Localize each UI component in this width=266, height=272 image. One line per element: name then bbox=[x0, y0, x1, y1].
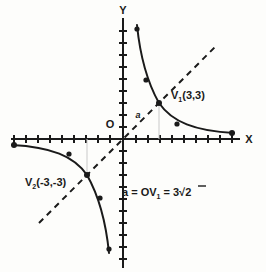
point-marker bbox=[97, 195, 102, 200]
vertex1-coords: (3,3) bbox=[182, 89, 205, 101]
radicand: 2 bbox=[185, 186, 191, 198]
point-marker bbox=[143, 77, 148, 82]
point-marker bbox=[66, 151, 71, 156]
figure-canvas: Y X O a V1(3,3) V2(-3,-3) a = OV1 = 3√2 bbox=[0, 0, 266, 272]
vertex-marker-v1 bbox=[156, 100, 162, 106]
vertex2-label-group: V2(-3,-3) bbox=[25, 176, 67, 190]
svg-text:V2(-3,-3): V2(-3,-3) bbox=[25, 176, 67, 190]
point-marker bbox=[106, 246, 111, 251]
equation-lhs: a = OV bbox=[122, 186, 157, 198]
origin-label: O bbox=[106, 118, 115, 130]
curve-branch-lower-left bbox=[12, 145, 109, 253]
hyperbola-figure: Y X O a V1(3,3) V2(-3,-3) a = OV1 = 3√2 bbox=[0, 0, 266, 272]
y-axis-label: Y bbox=[119, 4, 127, 16]
svg-text:a = OV1 = 3√2: a = OV1 = 3√2 bbox=[122, 186, 191, 200]
equation-rhs: = 3 bbox=[160, 186, 179, 198]
vertex1-label-group: V1(3,3) bbox=[171, 89, 205, 103]
semi-axis-length-label: a bbox=[135, 110, 140, 120]
curve-branch-upper-right bbox=[137, 25, 234, 133]
vertex2-coords: (-3,-3) bbox=[36, 176, 66, 188]
equation-group: a = OV1 = 3√2 bbox=[122, 186, 206, 200]
vertex-marker-v2 bbox=[84, 172, 90, 178]
x-axis-label: X bbox=[245, 133, 253, 145]
point-marker bbox=[174, 121, 179, 126]
point-marker bbox=[11, 142, 17, 148]
svg-text:V1(3,3): V1(3,3) bbox=[171, 89, 205, 103]
point-marker bbox=[229, 130, 235, 136]
point-marker bbox=[134, 26, 139, 31]
